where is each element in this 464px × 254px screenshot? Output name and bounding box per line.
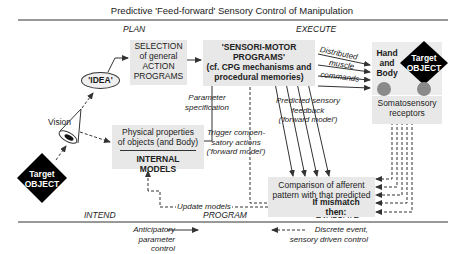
legend-discrete-event: Discrete event, sensory driven control: [278, 225, 368, 244]
eye-icon: [57, 109, 81, 146]
phase-execute: EXECUTE: [296, 24, 336, 34]
selection-action-programs-box: SELECTION of general ACTION PROGRAMS: [130, 40, 187, 85]
hand-and-body-label: Hand and Body: [372, 48, 402, 78]
internal-models-box: Physical properties of objects (and Body…: [112, 125, 204, 169]
sensori-motor-programs-box: 'SENSORI-MOTOR PROGRAMS' (cf. CPG mechan…: [203, 40, 315, 86]
if-mismatch-label: If mismatch then:: [306, 198, 366, 217]
phase-program: PROGRAM: [203, 210, 247, 220]
target-object-left-label: Target OBJECT: [22, 170, 62, 189]
trigger-compensatory-label: Trigger compen- satory actions ('forward…: [196, 128, 276, 157]
update-models-label: Update models: [176, 202, 232, 211]
vision-label: Vision: [48, 117, 71, 127]
phase-intend: INTEND: [84, 210, 116, 220]
parameter-specification-label: Parameter specification: [172, 93, 242, 112]
receptor-dot-object: [417, 82, 431, 96]
predicted-sensory-feedback-label: Predicted sensory feedback ('forward mod…: [268, 96, 348, 125]
legend-anticipatory: Anticipatory parameter control: [115, 225, 175, 254]
phase-plan: PLAN: [123, 24, 145, 34]
internal-models-label: INTERNAL MODELS: [120, 150, 196, 174]
somatosensory-receptors-box: Somatosensory receptors: [372, 96, 442, 124]
receptor-dot-hand: [377, 82, 391, 96]
idea-node: 'IDEA': [81, 72, 120, 89]
target-object-right-label: Target OBJECT: [404, 54, 444, 73]
